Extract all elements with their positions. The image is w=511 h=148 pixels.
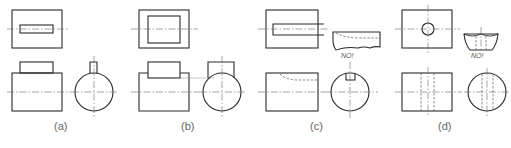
front-view-a xyxy=(7,62,72,111)
top-view-b xyxy=(131,10,198,48)
panel-c: NO! (c) xyxy=(258,10,380,132)
panel-a: (a) xyxy=(7,10,117,132)
front-view-d xyxy=(395,67,462,117)
annotation-no-c: NO! xyxy=(341,52,354,59)
panel-label-a: (a) xyxy=(54,120,67,132)
top-view-d xyxy=(395,5,460,53)
panel-b: (b) xyxy=(131,10,245,132)
top-view-a xyxy=(7,10,69,48)
wrong-section-c: NO! xyxy=(333,32,380,59)
front-view-c xyxy=(258,73,326,111)
side-view-a xyxy=(72,56,117,117)
top-view-c xyxy=(258,10,328,48)
front-view-b xyxy=(131,62,214,111)
orthographic-drawing: (a) (b) NO! xyxy=(0,0,511,148)
side-view-b xyxy=(200,56,245,117)
side-view-c xyxy=(326,62,378,118)
panel-label-c: (c) xyxy=(310,120,323,132)
panel-d: NO! (d) xyxy=(395,5,510,132)
side-view-d xyxy=(464,68,510,116)
wrong-section-d: NO! xyxy=(464,27,498,59)
panel-label-b: (b) xyxy=(181,120,194,132)
panel-label-d: (d) xyxy=(438,120,451,132)
annotation-no-d: NO! xyxy=(471,52,484,59)
